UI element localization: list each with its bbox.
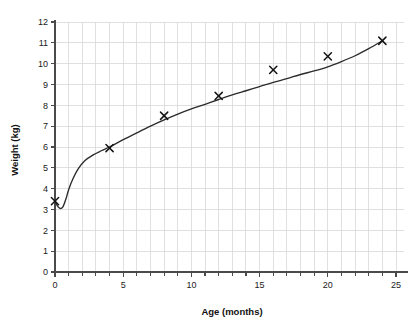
y-tick-label: 4: [43, 184, 48, 194]
y-axis-title: Weight (kg): [9, 124, 20, 176]
x-tick-label: 0: [52, 280, 57, 290]
y-tick-label: 7: [43, 121, 48, 131]
y-tick-label: 8: [43, 101, 48, 111]
y-tick-label: 0: [43, 267, 48, 277]
chart-background: [0, 0, 417, 323]
x-tick-label: 15: [255, 280, 265, 290]
y-tick-label: 3: [43, 205, 48, 215]
x-tick-label: 20: [323, 280, 333, 290]
x-axis-title: Age (months): [201, 306, 262, 317]
y-tick-label: 10: [38, 59, 48, 69]
y-tick-label: 12: [38, 17, 48, 27]
y-tick-label: 11: [39, 38, 48, 48]
x-tick-label: 25: [391, 280, 401, 290]
y-tick-label: 9: [43, 80, 48, 90]
y-tick-label: 6: [43, 142, 48, 152]
y-tick-label: 2: [43, 226, 48, 236]
x-tick-label: 10: [186, 280, 196, 290]
x-tick-label: 5: [121, 280, 126, 290]
chart-container: 01234567891011120510152025 Age (months) …: [0, 0, 417, 323]
y-tick-label: 1: [43, 246, 48, 256]
y-tick-label: 5: [43, 163, 48, 173]
weight-vs-age-chart: 01234567891011120510152025 Age (months) …: [0, 0, 417, 323]
